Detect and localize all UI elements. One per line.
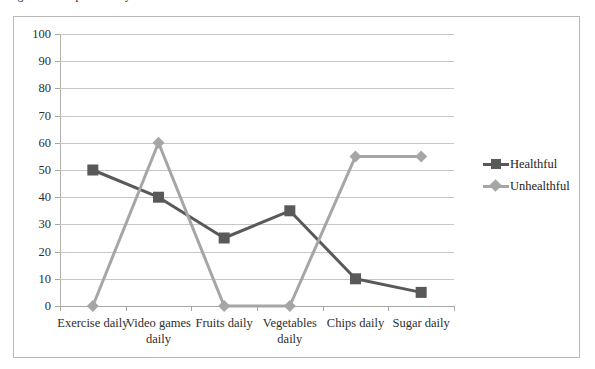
plot-area: 1009080706050403020100 Exercise dailyVid… — [60, 34, 454, 306]
data-point-marker — [218, 300, 230, 312]
chart-legend: HealthfulUnhealthful — [483, 153, 578, 197]
y-axis-tick-label: 0 — [45, 299, 51, 314]
data-point-marker — [153, 192, 164, 203]
x-tick-mark — [60, 306, 61, 311]
legend-swatch-icon — [483, 157, 509, 171]
chart-frame: 1009080706050403020100 Exercise dailyVid… — [13, 16, 580, 358]
x-tick-mark — [126, 306, 127, 311]
legend-item-unhealthful[interactable]: Unhealthful — [483, 175, 578, 197]
y-axis-tick-label: 40 — [39, 190, 52, 205]
data-point-marker — [153, 137, 165, 149]
data-point-marker — [284, 205, 295, 216]
data-point-marker — [416, 287, 427, 298]
chart-page: Figure: Self-reported daily habits 10090… — [0, 0, 595, 369]
data-point-marker — [415, 150, 427, 162]
caption-strip: Figure: Self-reported daily habits — [0, 0, 595, 13]
x-tick-mark — [454, 306, 455, 311]
x-tick-mark — [388, 306, 389, 311]
y-axis-tick-label: 100 — [32, 27, 51, 42]
legend-item-healthful[interactable]: Healthful — [483, 153, 578, 175]
x-tick-mark — [191, 306, 192, 311]
data-point-marker — [219, 233, 230, 244]
x-axis-tick-label: Sugar daily — [382, 315, 460, 331]
data-point-marker — [87, 300, 99, 312]
legend-square-icon — [491, 159, 501, 169]
y-axis-tick-label: 90 — [39, 54, 52, 69]
y-axis-tick-label: 10 — [39, 271, 52, 286]
x-tick-mark — [323, 306, 324, 311]
data-point-marker — [87, 165, 98, 176]
series-line — [93, 170, 421, 292]
legend-diamond-icon — [489, 179, 502, 192]
legend-swatch-icon — [483, 179, 509, 193]
series-plot — [60, 34, 454, 306]
caption-text: Figure: Self-reported daily habits — [8, 0, 161, 1]
y-axis-tick-label: 50 — [39, 163, 52, 178]
series-healthful — [87, 165, 426, 298]
legend-label: Unhealthful — [509, 179, 570, 194]
y-axis-tick-label: 20 — [39, 244, 52, 259]
y-axis-tick-label: 80 — [39, 81, 52, 96]
data-point-marker — [350, 273, 361, 284]
y-axis-tick-label: 70 — [39, 108, 52, 123]
y-axis-tick-label: 60 — [39, 135, 52, 150]
data-point-marker — [350, 150, 362, 162]
data-point-marker — [284, 300, 296, 312]
y-axis-tick-label: 30 — [39, 217, 52, 232]
legend-label: Healthful — [509, 157, 557, 172]
